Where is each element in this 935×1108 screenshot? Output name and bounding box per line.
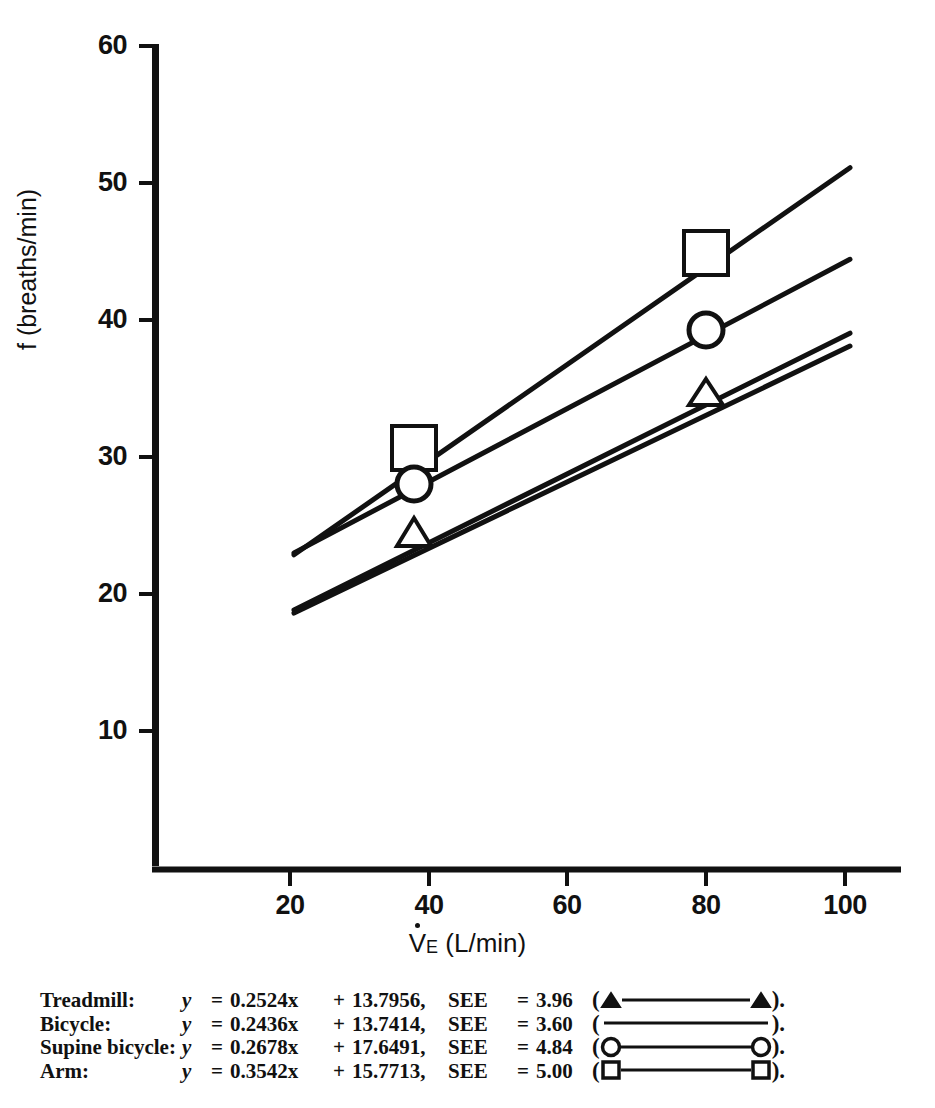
legend-symbol-bicycle: ( ). [592, 1012, 785, 1036]
eq-see-label-arm: SEE [448, 1060, 510, 1084]
eq-see-equals-arm: = [510, 1060, 536, 1084]
eq-see-equals-treadmill: = [510, 989, 536, 1013]
legend-swatch-svg-bicycle [600, 1012, 772, 1034]
legend-close-paren-arm: ). [772, 1059, 785, 1083]
legend-open-paren-supine-bicycle: ( [592, 1035, 600, 1059]
marker-triangle-treadmill-40 [397, 518, 431, 546]
x-axis-title: VE (L/min) [0, 928, 935, 959]
eq-see-equals-bicycle: = [510, 1013, 536, 1037]
eq-plus-bicycle: + [326, 1013, 352, 1037]
x-tick-marks [290, 872, 845, 886]
y-tick-label-20: 20 [57, 578, 127, 609]
eq-see-value-arm: 5.00 [536, 1060, 592, 1084]
x-tick-label-60: 60 [532, 890, 602, 921]
plot-canvas [0, 0, 935, 925]
legend-symbol-supine-bicycle: ( ). [592, 1035, 785, 1059]
series-lines [294, 168, 850, 613]
eq-equals-bicycle: = [204, 1013, 230, 1037]
x-axis-title-v: V [409, 928, 426, 959]
eq-slope-bicycle: 0.2436x [230, 1013, 326, 1037]
eq-plus-treadmill: + [326, 989, 352, 1013]
eq-equals-treadmill: = [204, 989, 230, 1013]
series-line-arm [294, 168, 850, 555]
legend-equation-treadmill: y = 0.2524x + 13.7956, SEE = 3.96 [182, 989, 592, 1013]
y-tick-label-30: 30 [57, 441, 127, 472]
legend-symbol-arm: ( ). [592, 1059, 785, 1083]
legend-row-arm: Arm: y = 0.3542x + 15.7713, SEE = 5.00 ( [0, 1059, 935, 1083]
eq-see-value-bicycle: 3.60 [536, 1013, 592, 1037]
eq-y-bicycle: y [182, 1013, 204, 1037]
legend-equation-supine-bicycle: y = 0.2678x + 17.6491, SEE = 4.84 [182, 1036, 592, 1060]
eq-y-arm: y [182, 1060, 204, 1084]
legend-swatch-treadmill [600, 989, 772, 1011]
legend-label-arm: Arm: [0, 1060, 182, 1084]
eq-plus-arm: + [326, 1060, 352, 1084]
series-markers [392, 231, 728, 546]
legend-label-bicycle: Bicycle: [0, 1013, 182, 1037]
eq-intercept-supine-bicycle: 17.6491, [352, 1036, 448, 1060]
eq-y-supine-bicycle: y [182, 1036, 204, 1060]
eq-see-label-treadmill: SEE [448, 989, 510, 1013]
legend-open-paren-arm: ( [592, 1059, 600, 1083]
eq-slope-supine-bicycle: 0.2678x [230, 1036, 326, 1060]
legend-symbol-treadmill: ( ). [592, 988, 785, 1012]
marker-triangle-treadmill-80 [689, 379, 723, 405]
y-tick-marks [139, 46, 152, 731]
eq-intercept-arm: 15.7713, [352, 1060, 448, 1084]
eq-see-equals-supine-bicycle: = [510, 1036, 536, 1060]
eq-see-value-treadmill: 3.96 [536, 989, 592, 1013]
legend-equation-bicycle: y = 0.2436x + 13.7414, SEE = 3.60 [182, 1013, 592, 1037]
eq-intercept-treadmill: 13.7956, [352, 989, 448, 1013]
eq-equals-supine-bicycle: = [204, 1036, 230, 1060]
plot-area: 60 50 40 30 20 10 20 40 60 80 100 f (bre… [0, 0, 935, 925]
eq-see-label-bicycle: SEE [448, 1013, 510, 1037]
series-line-supine-bicycle [294, 259, 850, 553]
legend-swatch-bicycle [600, 1012, 772, 1034]
eq-equals-arm: = [204, 1060, 230, 1084]
x-tick-label-40: 40 [394, 890, 464, 921]
marker-square-arm-80 [684, 231, 728, 275]
legend-swatch-arm [600, 1059, 772, 1081]
x-tick-label-20: 20 [255, 890, 325, 921]
legend-swatch-svg-supine-bicycle [600, 1036, 772, 1058]
y-axis-title: f (breaths/min) [13, 50, 42, 350]
x-tick-label-80: 80 [671, 890, 741, 921]
legend-close-paren-treadmill: ). [772, 988, 785, 1012]
legend-row-supine-bicycle: Supine bicycle: y = 0.2678x + 17.6491, S… [0, 1035, 935, 1059]
axis-lines [152, 44, 901, 870]
y-tick-label-60: 60 [57, 30, 127, 61]
series-line-treadmill [294, 333, 850, 610]
legend-close-paren-bicycle: ). [772, 1012, 785, 1036]
legend-swatch-svg-treadmill [600, 989, 772, 1011]
eq-see-value-supine-bicycle: 4.84 [536, 1036, 592, 1060]
caption-legend: Treadmill: y = 0.2524x + 13.7956, SEE = … [0, 988, 935, 1082]
legend-equation-arm: y = 0.3542x + 15.7713, SEE = 5.00 [182, 1060, 592, 1084]
marker-circle-supine-40 [397, 467, 431, 501]
eq-y-treadmill: y [182, 989, 204, 1013]
legend-label-supine-bicycle: Supine bicycle: [0, 1036, 182, 1060]
eq-see-label-supine-bicycle: SEE [448, 1036, 510, 1060]
legend-open-paren-treadmill: ( [592, 988, 600, 1012]
legend-open-paren-bicycle: ( [592, 1012, 600, 1036]
y-tick-label-50: 50 [57, 167, 127, 198]
x-tick-label-100: 100 [810, 890, 880, 921]
y-tick-label-10: 10 [57, 715, 127, 746]
series-line-bicycle [294, 346, 850, 613]
legend-close-paren-supine-bicycle: ). [772, 1035, 785, 1059]
marker-square-arm-40 [392, 426, 436, 470]
y-tick-label-40: 40 [57, 304, 127, 335]
legend-row-treadmill: Treadmill: y = 0.2524x + 13.7956, SEE = … [0, 988, 935, 1012]
x-axis-title-unit: (L/min) [445, 928, 526, 958]
figure-root: 60 50 40 30 20 10 20 40 60 80 100 f (bre… [0, 0, 935, 1108]
eq-slope-arm: 0.3542x [230, 1060, 326, 1084]
legend-label-treadmill: Treadmill: [0, 989, 182, 1013]
eq-plus-supine-bicycle: + [326, 1036, 352, 1060]
legend-swatch-svg-arm [600, 1059, 772, 1081]
x-axis-title-subscript: E [426, 937, 438, 957]
legend-swatch-supine-bicycle [600, 1036, 772, 1058]
legend-row-bicycle: Bicycle: y = 0.2436x + 13.7414, SEE = 3.… [0, 1012, 935, 1036]
marker-circle-supine-80 [689, 313, 723, 347]
eq-slope-treadmill: 0.2524x [230, 989, 326, 1013]
eq-intercept-bicycle: 13.7414, [352, 1013, 448, 1037]
